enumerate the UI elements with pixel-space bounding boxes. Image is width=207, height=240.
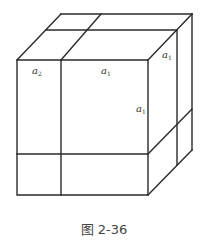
label-a1-front: a1 [101, 65, 111, 77]
right-face [148, 14, 192, 195]
label-a1-height: a1 [136, 103, 146, 115]
top-width-divider [61, 14, 101, 60]
front-face [17, 60, 148, 195]
label-a1-depth: a1 [162, 49, 172, 61]
label-a2-front: a2 [32, 65, 42, 77]
figure-caption: 图 2-36 [81, 222, 128, 237]
right-height-divider [148, 109, 192, 154]
cube-diagram: a2 a1 a1 a1 图 2-36 [0, 0, 207, 240]
